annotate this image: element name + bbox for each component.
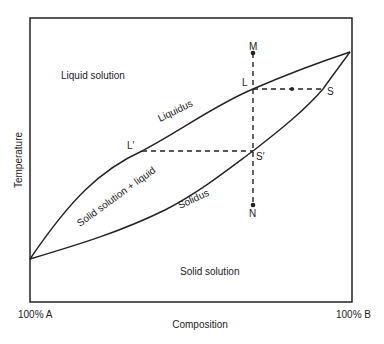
region-liquid-label: Liquid solution bbox=[61, 70, 125, 81]
region-solid-label: Solid solution bbox=[180, 266, 239, 277]
x-right-label: 100% B bbox=[336, 309, 371, 320]
label-L: L bbox=[242, 77, 248, 88]
point-mid-marker bbox=[290, 87, 294, 91]
label-S: S bbox=[327, 86, 334, 97]
x-left-label: 100% A bbox=[18, 309, 53, 320]
liquidus-curve bbox=[30, 52, 350, 259]
x-axis-label: Composition bbox=[172, 319, 228, 330]
label-N: N bbox=[249, 208, 256, 219]
point-N-marker bbox=[251, 203, 256, 208]
label-M: M bbox=[249, 41, 257, 52]
phase-diagram: M L S L′ S′ N Liquid solution Solid solu… bbox=[0, 0, 384, 344]
liquidus-label: Liquidus bbox=[156, 98, 194, 124]
solidus-label: Solidus bbox=[176, 187, 210, 211]
plot-frame bbox=[30, 18, 352, 302]
label-L-prime: L′ bbox=[127, 140, 135, 151]
solidus-curve bbox=[30, 52, 350, 259]
y-axis-label: Temperature bbox=[13, 131, 24, 188]
label-S-prime: S′ bbox=[256, 151, 265, 162]
